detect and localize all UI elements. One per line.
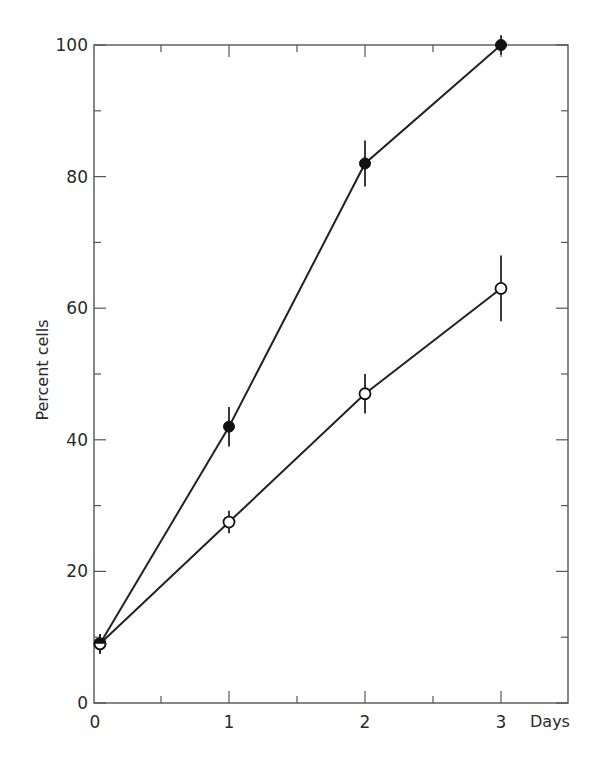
filled-circle-marker — [360, 158, 371, 169]
y-tick-label: 80 — [66, 167, 88, 187]
y-tick-label: 20 — [66, 561, 88, 581]
filled-circle-marker — [224, 421, 235, 432]
series-line-open — [100, 288, 501, 643]
y-tick-label: 60 — [66, 298, 88, 318]
series-line-filled — [100, 45, 501, 644]
plot-frame — [94, 45, 568, 703]
y-axis-title: Percent cells — [33, 319, 52, 420]
x-axis-title: Days — [530, 712, 570, 731]
data-series — [95, 35, 507, 654]
open-circle-marker — [224, 517, 235, 528]
x-tick-label: 0 — [90, 712, 101, 732]
chart: 0204060801000123 Percent cells Days — [0, 0, 610, 761]
y-tick-label: 40 — [66, 430, 88, 450]
y-tick-label: 0 — [77, 693, 88, 713]
x-tick-label: 2 — [360, 712, 371, 732]
filled-circle-marker — [496, 40, 507, 51]
open-circle-marker — [360, 388, 371, 399]
axis-ticks — [94, 45, 568, 703]
tick-labels: 0204060801000123 — [56, 35, 507, 732]
plot-border — [94, 45, 568, 703]
x-tick-label: 1 — [224, 712, 235, 732]
x-tick-label: 3 — [496, 712, 507, 732]
open-circle-marker — [496, 283, 507, 294]
y-tick-label: 100 — [56, 35, 88, 55]
